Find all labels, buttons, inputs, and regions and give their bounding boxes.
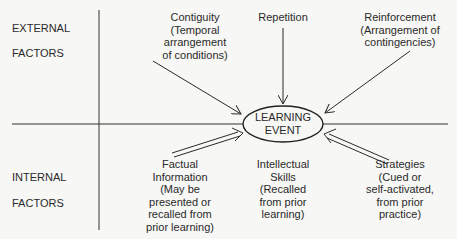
reinforcement-arrow	[325, 51, 410, 113]
contiguity-arrow	[153, 61, 241, 114]
factual-information-label: Factual Information (May be presented or…	[125, 158, 235, 233]
contiguity-label: Contiguity (Temporal arrangement of cond…	[140, 11, 250, 61]
intellectual-skills-label: Intellectual Skills (Recalled from prior…	[238, 158, 328, 221]
learning-event-line2: EVENT	[243, 124, 323, 137]
internal-factors-label: FACTORS	[12, 197, 64, 209]
factual-arrow	[172, 128, 243, 157]
strategies-label: Strategies (Cued or self-activated, from…	[345, 158, 455, 221]
learning-event-line1: LEARNING	[243, 111, 323, 124]
external-label: EXTERNAL	[12, 22, 70, 34]
repetition-label: Repetition	[238, 11, 328, 24]
reinforcement-label: Reinforcement (Arrangement of contingenc…	[340, 11, 457, 49]
learning-event-label: LEARNING EVENT	[243, 111, 323, 137]
internal-label: INTERNAL	[12, 171, 66, 183]
external-factors-label: FACTORS	[12, 47, 64, 59]
